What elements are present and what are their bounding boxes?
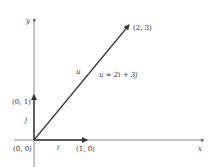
j-label: j (23, 116, 28, 124)
y-axis-label: y (25, 17, 31, 25)
x-axis-label: x (198, 145, 202, 153)
i-label: i (57, 144, 59, 152)
u-label: u (76, 68, 81, 76)
j-tip-label: (0, 1) (12, 98, 31, 106)
vector-u-arrow (34, 25, 129, 140)
u-tip-label: (2, 3) (133, 24, 152, 32)
origin-label: (0, 0) (13, 145, 32, 153)
u-equation-label: u = 2i + 3j (99, 71, 138, 79)
i-tip-label: (1, 0) (76, 145, 95, 153)
vector-diagram: y x (0, 0) (1, 0) i (0, 1) j (2, 3) u u … (0, 0, 208, 167)
